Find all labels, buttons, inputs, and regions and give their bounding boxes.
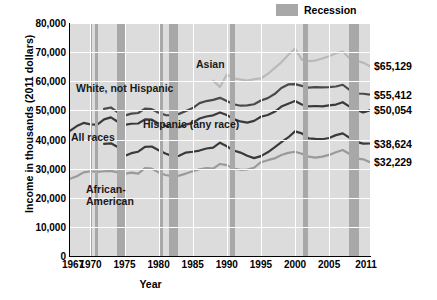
annotation-african-american-line2: American	[86, 195, 134, 207]
x-axis-line	[69, 256, 371, 257]
y-tick-80000: 80,000	[12, 18, 66, 29]
legend: Recession	[276, 4, 357, 16]
gridline-v-1985	[193, 23, 194, 256]
y-tick-40000: 40,000	[12, 134, 66, 145]
gridline-h-50000	[70, 110, 370, 111]
y-tick-30000: 30,000	[12, 163, 66, 174]
annotation-african-american-line1: African-	[86, 183, 134, 195]
annotation-white-not-hispanic: White, not Hispanic	[76, 82, 173, 94]
gridline-v-1995	[261, 23, 262, 256]
x-tick-1970: 1970	[79, 259, 101, 270]
annotation-asian: Asian	[196, 58, 225, 70]
x-tick-2000: 2000	[284, 259, 306, 270]
x-tick-1995: 1995	[250, 259, 272, 270]
y-tick-70000: 70,000	[12, 47, 66, 58]
chart-figure: Income in thousands (2011 dollars) 010,0…	[0, 0, 437, 300]
gridline-h-80000	[70, 23, 370, 24]
y-tick-10000: 10,000	[12, 221, 66, 232]
end-label-hispanic-any-race: $38,624	[374, 138, 412, 150]
x-axis-tick-labels: 1967197019751980198519901995200020052011	[0, 259, 437, 279]
x-tick-1990: 1990	[216, 259, 238, 270]
annotation-all-races: All races	[71, 131, 115, 143]
x-tick-2011: 2011	[355, 259, 377, 270]
annotation-hispanic: Hispanic (any race)	[143, 118, 239, 130]
annotation-african-american: African- American	[86, 183, 134, 207]
end-label-asian: $65,129	[374, 60, 412, 72]
end-label-african-american: $32,229	[374, 156, 412, 168]
end-label-white-not-hispanic: $55,412	[374, 89, 412, 101]
legend-label-recession: Recession	[304, 4, 357, 16]
x-tick-2005: 2005	[318, 259, 340, 270]
y-tick-50000: 50,000	[12, 105, 66, 116]
gridline-h-70000	[70, 52, 370, 53]
y-axis-tick-labels: 010,00020,00030,00040,00050,00060,00070,…	[12, 0, 66, 300]
gridline-h-10000	[70, 227, 370, 228]
gridline-v-2000	[295, 23, 296, 256]
gridline-v-1990	[227, 23, 228, 256]
x-tick-1975: 1975	[113, 259, 135, 270]
y-tick-60000: 60,000	[12, 76, 66, 87]
gridline-h-40000	[70, 140, 370, 141]
x-tick-1985: 1985	[182, 259, 204, 270]
gridline-h-30000	[70, 169, 370, 170]
recession-swatch-icon	[276, 4, 298, 16]
gridline-v-1980	[159, 23, 160, 256]
gridline-v-1975	[125, 23, 126, 256]
y-tick-20000: 20,000	[12, 192, 66, 203]
x-tick-1980: 1980	[148, 259, 170, 270]
x-axis-title: Year	[0, 278, 437, 290]
gridline-v-2005	[329, 23, 330, 256]
end-label-all-races: $50,054	[374, 104, 412, 116]
